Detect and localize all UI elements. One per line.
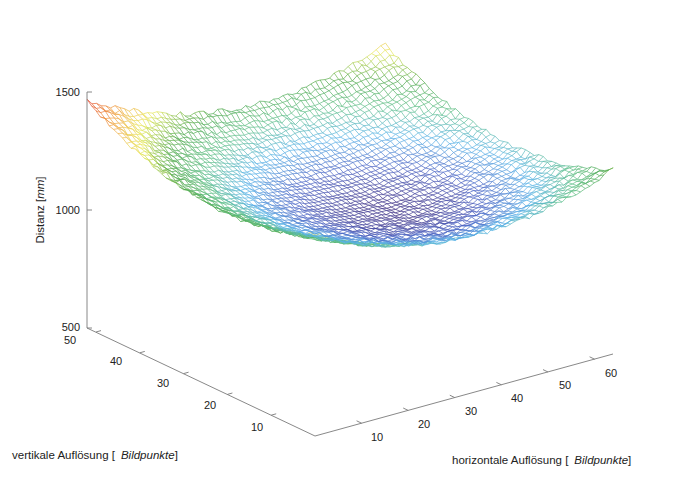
tick-mark: [96, 331, 101, 332]
x-tick-label: 10: [371, 431, 383, 443]
tick-mark: [140, 351, 145, 352]
tick-mark: [271, 414, 276, 415]
z-tick-label: 1500: [56, 86, 80, 98]
z-tick-label: 500: [62, 321, 80, 333]
x-tick-label: 40: [511, 392, 523, 404]
mesh-surface: [87, 43, 613, 247]
y-axis-label: vertikale Auflösung [Bildpunkte]: [12, 449, 178, 461]
y-axis-line: [87, 328, 315, 436]
tick-mark: [227, 393, 232, 394]
x-tick-label: 20: [418, 418, 430, 430]
y-tick-label: 40: [110, 355, 122, 367]
tick-mark: [543, 370, 548, 372]
tick-mark: [450, 395, 455, 397]
x-tick-label: 50: [559, 379, 571, 391]
x-tick-label: 30: [465, 405, 477, 417]
y-tick-label: 20: [204, 399, 216, 411]
y-tick-label: 10: [251, 421, 263, 433]
tick-mark: [184, 372, 189, 373]
tick-mark: [357, 421, 362, 423]
z-tick-label: 1000: [56, 204, 80, 216]
x-axis-line: [315, 354, 613, 436]
y-tick-label: 30: [157, 377, 169, 389]
x-tick-label: 60: [605, 367, 617, 379]
tick-mark: [496, 382, 501, 384]
y-tick-label: 50: [64, 334, 76, 346]
surface-plot: 1500 1000 500 50 40 30 20 10 10 20 30 40…: [0, 0, 678, 495]
z-axis-label: Distanz [mm]: [34, 176, 46, 243]
x-axis-label: horizontale Auflösung [Bildpunkte]: [452, 454, 631, 466]
tick-mark: [403, 408, 408, 410]
tick-mark: [590, 357, 595, 359]
